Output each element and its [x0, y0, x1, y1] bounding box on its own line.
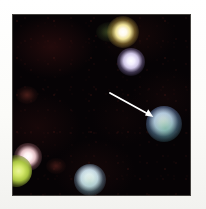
sky-image-panel: [12, 14, 191, 196]
panel-border: [12, 14, 191, 196]
astronomical-image-figure: [0, 0, 206, 209]
